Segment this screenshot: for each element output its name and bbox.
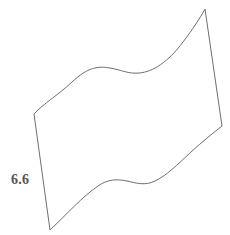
side-length-label-6-6: 6.6 [11,173,29,187]
wavy-quadrilateral-outline [34,9,222,230]
geometry-figure-canvas [0,0,230,235]
